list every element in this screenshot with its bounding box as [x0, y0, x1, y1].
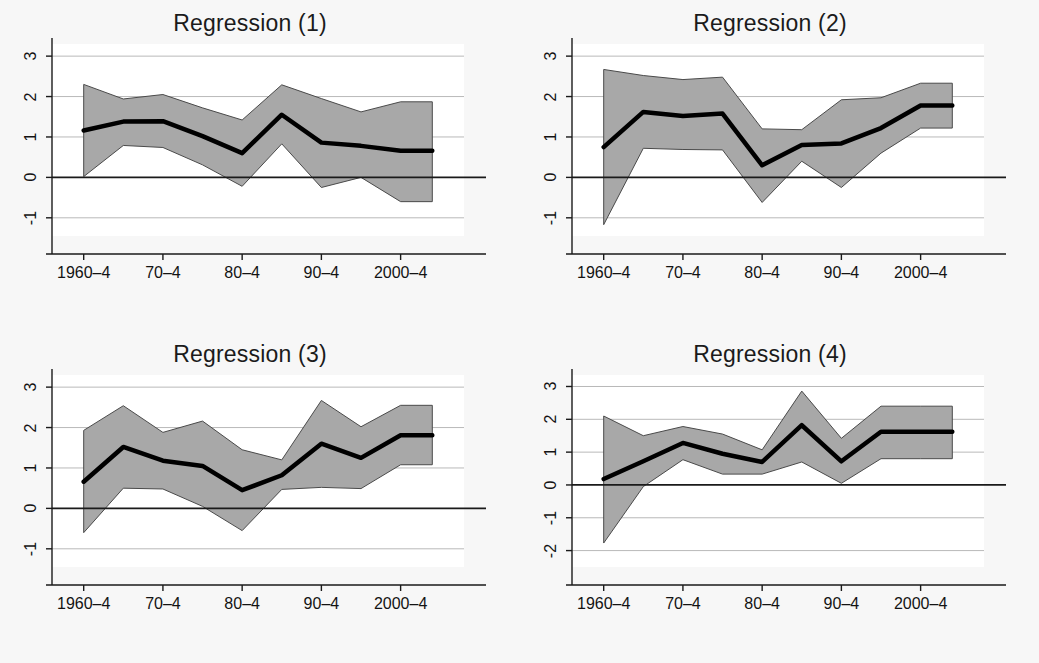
chart-panel-regression-2: Regression (2) -101231960–470–480–490–42…: [520, 6, 1020, 331]
x-tick-label: 90–4: [304, 595, 340, 613]
y-tick-label: 0: [22, 495, 40, 521]
x-tick-label: 80–4: [744, 264, 780, 282]
y-tick-label: -2: [542, 538, 560, 564]
x-tick-label: 1960–4: [577, 595, 630, 613]
x-tick-label: 1960–4: [577, 264, 630, 282]
y-tick-label: 1: [22, 455, 40, 481]
x-tick-label: 70–4: [665, 264, 701, 282]
y-tick-label: -1: [22, 536, 40, 562]
y-tick-label: 1: [22, 124, 40, 150]
x-tick-label: 1960–4: [57, 264, 110, 282]
plot-area: [520, 6, 1020, 331]
regression-figure: Regression (1) -101231960–470–480–490–42…: [0, 0, 1039, 663]
y-tick-label: 0: [22, 164, 40, 190]
y-tick-label: 3: [542, 373, 560, 399]
y-tick-label: -1: [542, 205, 560, 231]
x-tick-label: 80–4: [744, 595, 780, 613]
chart-panel-regression-1: Regression (1) -101231960–470–480–490–42…: [0, 6, 500, 331]
y-tick-label: 1: [542, 439, 560, 465]
y-tick-label: 2: [542, 406, 560, 432]
y-tick-label: 2: [542, 84, 560, 110]
plot-area: [0, 337, 500, 662]
x-tick-label: 90–4: [304, 264, 340, 282]
x-tick-label: 90–4: [824, 595, 860, 613]
x-tick-label: 70–4: [145, 595, 181, 613]
x-tick-label: 80–4: [224, 595, 260, 613]
chart-panel-regression-3: Regression (3) -101231960–470–480–490–42…: [0, 337, 500, 662]
x-tick-label: 2000–4: [894, 264, 947, 282]
x-tick-label: 2000–4: [374, 595, 427, 613]
y-tick-label: 3: [22, 43, 40, 69]
x-tick-label: 2000–4: [374, 264, 427, 282]
x-tick-label: 70–4: [145, 264, 181, 282]
y-tick-label: 0: [542, 472, 560, 498]
x-tick-label: 1960–4: [57, 595, 110, 613]
x-tick-label: 90–4: [824, 264, 860, 282]
y-tick-label: 1: [542, 124, 560, 150]
y-tick-label: 3: [22, 374, 40, 400]
y-tick-label: 2: [22, 415, 40, 441]
x-tick-label: 70–4: [665, 595, 701, 613]
y-tick-label: 3: [542, 43, 560, 69]
y-tick-label: 0: [542, 164, 560, 190]
y-tick-label: 2: [22, 84, 40, 110]
x-tick-label: 2000–4: [894, 595, 947, 613]
y-tick-label: -1: [542, 505, 560, 531]
plot-area: [0, 6, 500, 331]
plot-area: [520, 337, 1020, 662]
chart-panel-regression-4: Regression (4) -2-101231960–470–480–490–…: [520, 337, 1020, 662]
x-tick-label: 80–4: [224, 264, 260, 282]
y-tick-label: -1: [22, 205, 40, 231]
